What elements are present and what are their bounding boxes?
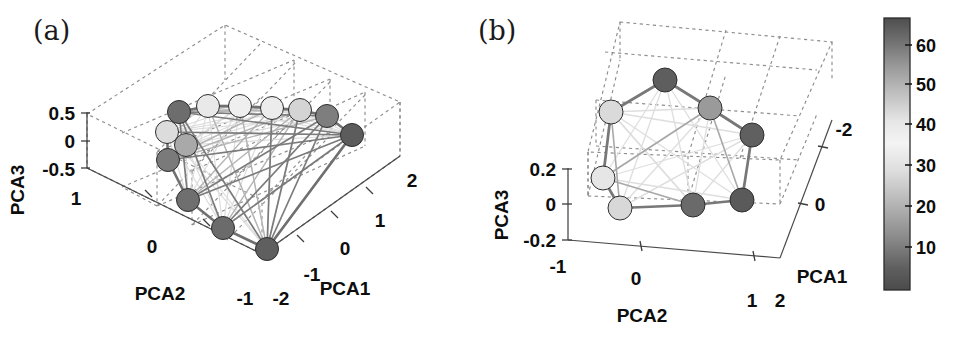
panel-a-zaxis-title: PCA3	[7, 165, 28, 216]
panel-b-ytick-0: -1	[550, 256, 567, 277]
colorbar-tick-50: 50	[916, 75, 936, 95]
panel-b-yaxis-title: PCA2	[617, 305, 668, 326]
panel-a-plot: 0.5 0 -0.5 1 0 -1 -2 -1 0 1 2 PCA3 PCA2 …	[0, 0, 470, 340]
panel-b-label: (b)	[478, 17, 516, 44]
panel-a: (a)	[0, 0, 470, 340]
panel-a-xaxis-title: PCA1	[320, 278, 371, 299]
figure-root: (a)	[0, 0, 955, 340]
panel-a-label: (a)	[33, 17, 70, 44]
panel-a-xtick-3: 1	[375, 210, 386, 231]
panel-b-axis-lines	[562, 120, 832, 261]
panel-a-xtick-1: -1	[304, 264, 321, 285]
colorbar-tick-20: 20	[916, 197, 936, 217]
colorbar-tick-labels: 60 50 40 30 20 10	[916, 36, 936, 258]
panel-a-ztick-2: -0.5	[42, 159, 75, 180]
colorbar-svg: 60 50 40 30 20 10	[850, 0, 955, 340]
panel-a-xtick-4: 2	[407, 170, 418, 191]
colorbar-tick-30: 30	[916, 156, 936, 176]
panel-b-edges	[603, 80, 752, 208]
panel-b-ztick-1: 0	[545, 194, 556, 215]
colorbar-tick-10: 10	[916, 238, 936, 258]
panel-a-ytick-0: 1	[71, 188, 82, 209]
panel-a-yaxis-title: PCA2	[135, 283, 186, 304]
panel-a-ytick-1: 0	[147, 236, 158, 257]
panel-b-ytick-1: 0	[631, 268, 642, 289]
panel-b: (b)	[450, 0, 850, 340]
panel-b-ztick-0: 0.2	[530, 159, 556, 180]
panel-b-xaxis-title: PCA1	[797, 266, 848, 287]
panel-b-xtick-1: 0	[815, 194, 826, 215]
panel-b-plot: 0.2 0 -0.2 -1 0 1 2 0 -2 PCA3 PCA2 PCA1	[450, 0, 850, 340]
colorbar-tick-60: 60	[916, 36, 936, 56]
colorbar-gradient	[884, 18, 910, 290]
panel-a-xtick-2: 0	[340, 238, 351, 259]
colorbar-tick-40: 40	[916, 115, 936, 135]
panel-b-ytick-2: 1	[747, 290, 758, 311]
panel-a-ztick-0: 0.5	[49, 103, 76, 124]
panel-b-ztick-2: -0.2	[523, 230, 556, 251]
colorbar: 60 50 40 30 20 10	[850, 0, 955, 340]
panel-b-xtick-0: 2	[775, 290, 786, 311]
panel-b-zaxis-title: PCA3	[491, 190, 512, 241]
panel-a-xtick-0: -2	[273, 288, 290, 309]
panel-a-ztick-1: 0	[64, 131, 75, 152]
panel-a-ytick-2: -1	[237, 288, 254, 309]
